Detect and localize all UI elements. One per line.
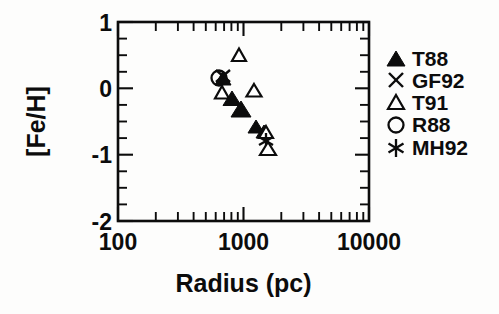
legend-item-mh92: MH92 bbox=[389, 136, 469, 159]
x-tick-label-10000: 10000 bbox=[337, 229, 401, 255]
open-triangle-icon bbox=[388, 95, 404, 109]
x-tick-label-100: 100 bbox=[99, 229, 137, 255]
x-axis-ticks-bottom bbox=[118, 207, 369, 221]
legend-label-t88: T88 bbox=[412, 47, 449, 70]
cross-icon bbox=[389, 73, 403, 87]
legend-item-t91: T91 bbox=[388, 91, 449, 114]
y-axis-ticks-left bbox=[118, 22, 133, 221]
legend-label-t91: T91 bbox=[412, 91, 449, 114]
x-axis-ticks-top bbox=[118, 22, 369, 36]
legend-item-t88: T88 bbox=[387, 47, 449, 70]
data-point-t91 bbox=[232, 49, 246, 62]
legend: T88 GF92 T91 R88 bbox=[387, 47, 468, 159]
y-axis-ticks-right bbox=[355, 22, 369, 204]
data-point-t91 bbox=[215, 86, 229, 99]
y-tick-label-minus1: -1 bbox=[92, 142, 113, 168]
legend-item-gf92: GF92 bbox=[389, 69, 465, 92]
data-point-t88 bbox=[215, 71, 231, 85]
legend-label-mh92: MH92 bbox=[412, 136, 468, 159]
y-tick-label-1: 1 bbox=[99, 10, 112, 36]
data-point-t91 bbox=[247, 84, 262, 97]
circle-icon bbox=[389, 118, 404, 133]
y-axis-title: [Fe/H] bbox=[22, 86, 50, 157]
legend-label-r88: R88 bbox=[412, 113, 451, 136]
x-tick-label-1000: 1000 bbox=[218, 229, 269, 255]
star-icon bbox=[389, 139, 404, 157]
x-axis-title: Radius (pc) bbox=[175, 269, 311, 297]
plot-frame bbox=[118, 22, 369, 221]
legend-label-gf92: GF92 bbox=[412, 69, 465, 92]
figure-container: 1 0 -1 -2 100 1000 10000 Radius (pc) [Fe… bbox=[0, 0, 499, 314]
scatter-plot: 1 0 -1 -2 100 1000 10000 Radius (pc) [Fe… bbox=[0, 0, 499, 314]
filled-triangle-icon bbox=[387, 51, 405, 66]
legend-item-r88: R88 bbox=[389, 113, 451, 136]
y-tick-label-0: 0 bbox=[99, 76, 112, 102]
